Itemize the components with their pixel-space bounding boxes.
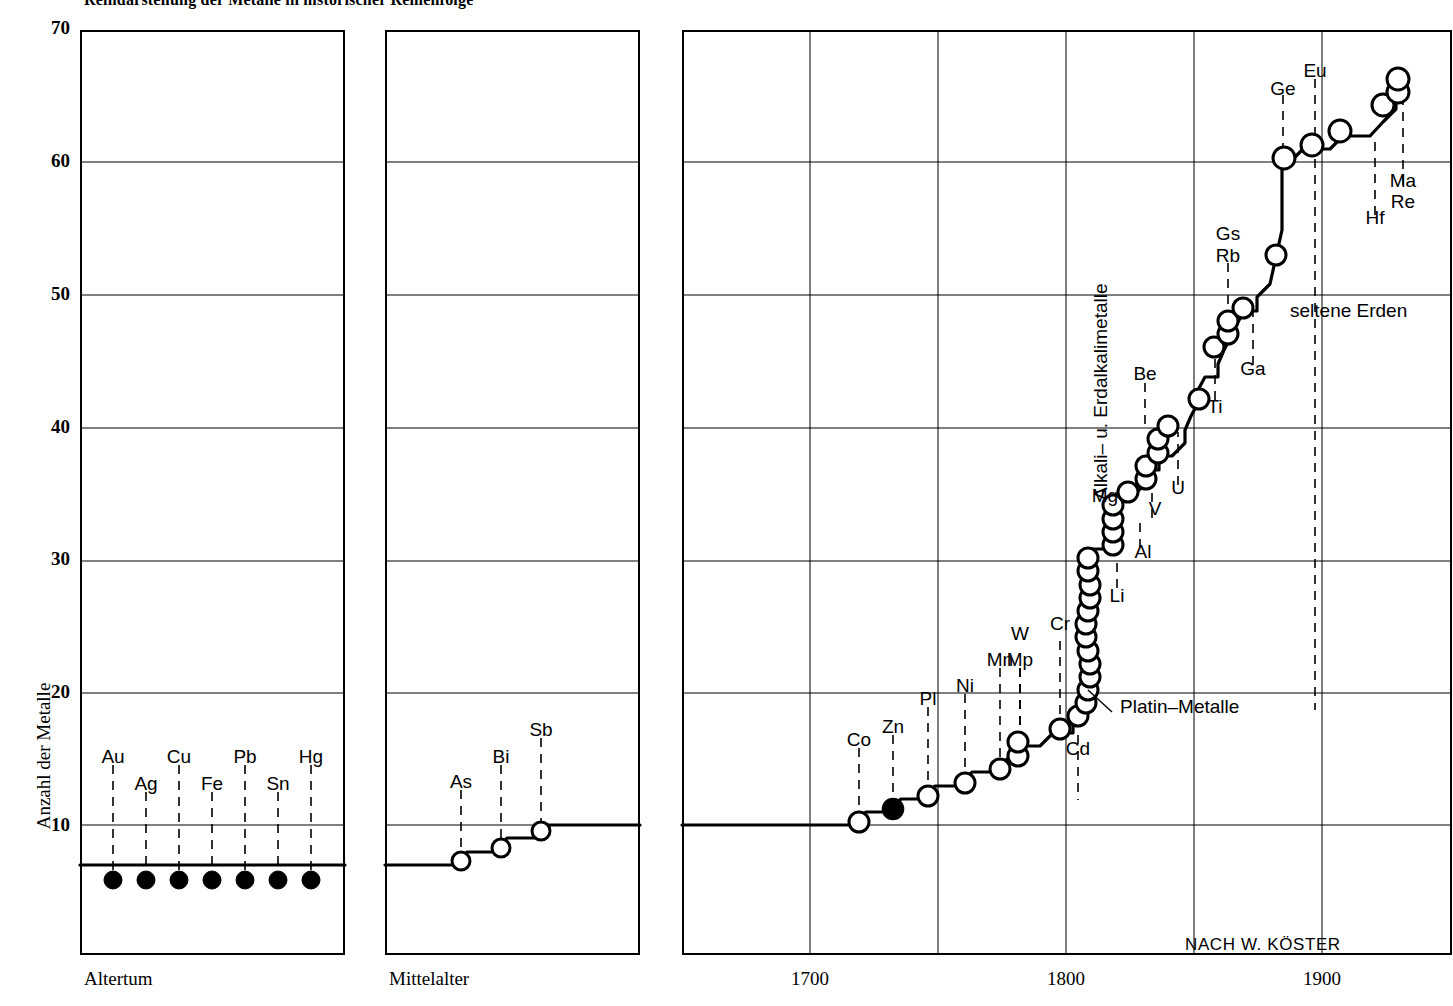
- element-label-li: Li: [1110, 585, 1125, 607]
- element-label-rb: Rb: [1216, 245, 1240, 267]
- element-label-v: V: [1149, 498, 1162, 520]
- element-label-u: U: [1171, 477, 1185, 499]
- element-label-cr: Cr: [1050, 613, 1070, 635]
- element-label-al: Al: [1135, 541, 1152, 563]
- credit-label: NACH W. KÖSTER: [1185, 935, 1341, 955]
- annotation-seltene-erden: seltene Erden: [1290, 300, 1407, 322]
- element-label-mp: Mp: [1007, 649, 1033, 671]
- element-label-pl: Pl: [920, 688, 937, 710]
- element-label-zn: Zn: [882, 716, 904, 738]
- element-label-ni: Ni: [956, 675, 974, 697]
- x-tick-1800: 1800: [1047, 968, 1085, 990]
- element-label-w: W: [1011, 623, 1029, 645]
- annotation-alkali-erdalkalimetalle: Alkali– u. Erdalkalimetalle: [1090, 284, 1112, 501]
- element-label-co: Co: [847, 729, 871, 751]
- element-label-ma: Ma: [1390, 170, 1416, 192]
- element-label-hf: Hf: [1366, 207, 1385, 229]
- element-label-eu: Eu: [1303, 60, 1326, 82]
- step-curve-neuzeit: [682, 82, 1403, 825]
- x-tick-1700: 1700: [791, 968, 829, 990]
- element-label-ge: Ge: [1270, 78, 1295, 100]
- element-label-ga: Ga: [1240, 358, 1265, 380]
- panel-neuzeit-graphics: [0, 0, 1453, 1006]
- element-label-be: Be: [1133, 363, 1156, 385]
- x-tick-1900: 1900: [1303, 968, 1341, 990]
- annotation-platin-metalle: Platin–Metalle: [1120, 696, 1239, 718]
- element-label-ti: Ti: [1207, 396, 1222, 418]
- element-label-re: Re: [1391, 191, 1415, 213]
- element-label-cd: Cd: [1066, 738, 1090, 760]
- element-label-gs: Gs: [1216, 223, 1240, 245]
